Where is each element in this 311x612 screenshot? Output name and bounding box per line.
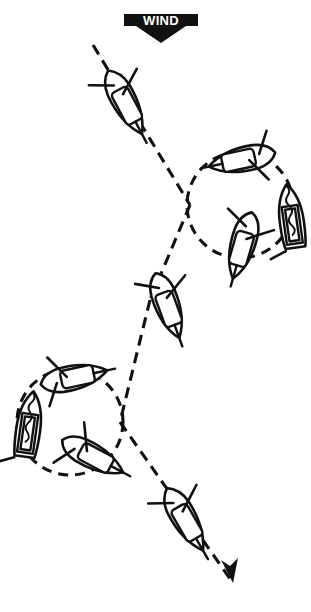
boat-circle-upper-top xyxy=(196,130,280,193)
course-segment-lower-mid xyxy=(120,300,150,422)
boat-bottom-reaching xyxy=(146,475,231,572)
sailing-circles-diagram: WIND xyxy=(0,0,311,612)
wind-arrow: WIND xyxy=(124,13,198,43)
diagram-canvas: WIND xyxy=(0,0,311,612)
boat-circle-lower-bottom xyxy=(51,417,142,497)
boat-middle-running xyxy=(134,264,208,354)
boat-circle-lower-top xyxy=(36,344,120,407)
boat-top-reaching xyxy=(87,58,170,154)
wind-label: WIND xyxy=(143,13,179,28)
boat-circle-upper-right xyxy=(261,183,309,260)
